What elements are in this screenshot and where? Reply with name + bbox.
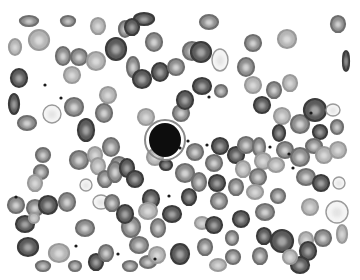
- red-blood-cell: [271, 189, 285, 203]
- red-blood-cell: [247, 185, 263, 199]
- platelet: [43, 83, 46, 86]
- red-blood-cell: [226, 250, 240, 264]
- platelet: [167, 194, 170, 197]
- red-blood-cell: [106, 38, 126, 60]
- red-blood-cell: [250, 169, 266, 185]
- red-blood-cell: [187, 144, 203, 160]
- red-blood-cell: [103, 138, 119, 156]
- red-blood-cell: [71, 49, 87, 65]
- red-blood-cell: [65, 98, 83, 116]
- red-blood-cell: [39, 196, 57, 214]
- red-blood-cell: [283, 75, 297, 91]
- red-blood-cell: [149, 247, 165, 263]
- red-blood-cell: [18, 238, 38, 256]
- red-blood-cell: [198, 239, 212, 255]
- red-blood-cell: [18, 116, 36, 130]
- red-blood-cell: [245, 77, 261, 93]
- red-blood-cell: [331, 16, 345, 32]
- red-blood-cell: [177, 91, 193, 109]
- red-blood-cell: [191, 42, 211, 62]
- red-blood-cell: [193, 78, 211, 94]
- red-blood-cell: [215, 85, 227, 97]
- red-blood-cell: [192, 173, 206, 191]
- red-blood-cell: [209, 175, 225, 191]
- red-blood-cell: [238, 137, 254, 153]
- red-blood-cell: [302, 199, 318, 215]
- red-blood-cell: [304, 99, 326, 121]
- red-blood-cell: [64, 67, 80, 83]
- red-blood-cell: [36, 148, 50, 162]
- red-blood-cell: [253, 248, 267, 264]
- red-blood-cell: [9, 94, 19, 114]
- red-blood-cell: [61, 16, 75, 26]
- platelet: [268, 145, 271, 148]
- red-blood-cell: [229, 179, 243, 195]
- red-blood-cell: [146, 33, 162, 51]
- red-blood-cell: [233, 211, 249, 227]
- red-blood-cell: [36, 261, 50, 271]
- red-blood-cell: [337, 225, 347, 243]
- red-blood-cell: [236, 161, 250, 177]
- red-blood-cell: [330, 142, 346, 158]
- platelet: [116, 252, 119, 255]
- micrograph-canvas: [0, 0, 360, 280]
- red-blood-cell: [70, 151, 88, 169]
- red-blood-cell: [267, 82, 281, 98]
- red-blood-cell: [29, 213, 39, 223]
- red-blood-cell: [200, 15, 218, 29]
- red-blood-cell: [278, 30, 296, 48]
- red-blood-cell: [226, 231, 238, 245]
- red-blood-cell: [125, 19, 139, 35]
- red-blood-cell: [160, 160, 172, 170]
- red-blood-cell: [91, 18, 105, 34]
- red-blood-cell: [331, 120, 343, 134]
- red-blood-cell: [80, 179, 92, 191]
- red-blood-cell: [139, 203, 157, 219]
- red-blood-cell: [59, 193, 75, 211]
- red-blood-cell: [212, 49, 228, 71]
- platelet: [205, 143, 208, 146]
- red-blood-cell: [130, 237, 148, 253]
- red-blood-cell: [168, 59, 184, 75]
- red-blood-cell: [151, 219, 165, 237]
- red-blood-cell: [257, 228, 271, 244]
- red-blood-cell: [273, 125, 285, 141]
- red-blood-cell: [206, 155, 222, 171]
- red-blood-cell: [333, 177, 345, 189]
- red-blood-cell: [20, 16, 38, 26]
- red-blood-cell: [152, 63, 168, 81]
- red-blood-cell: [211, 193, 227, 209]
- red-blood-cell: [133, 70, 151, 88]
- red-blood-cell: [326, 104, 340, 116]
- red-blood-cell: [29, 30, 49, 50]
- red-blood-cell: [343, 51, 349, 71]
- platelet: [309, 111, 312, 114]
- red-blood-cell: [163, 206, 181, 222]
- platelet: [153, 257, 156, 260]
- red-blood-cell: [69, 261, 81, 271]
- red-blood-cell: [274, 108, 290, 124]
- lymphocyte-nucleus: [149, 123, 181, 157]
- red-blood-cell: [96, 104, 112, 122]
- red-blood-cell: [245, 35, 261, 51]
- red-blood-cell: [8, 197, 24, 213]
- red-blood-cell: [117, 205, 133, 223]
- platelet: [287, 152, 290, 155]
- platelet: [14, 195, 17, 198]
- red-blood-cell: [271, 230, 293, 252]
- red-blood-cell: [127, 171, 143, 187]
- red-blood-cell: [254, 97, 270, 113]
- red-blood-cell: [49, 244, 69, 262]
- red-blood-cell: [138, 109, 154, 125]
- platelet: [59, 96, 62, 99]
- red-blood-cell: [171, 244, 189, 264]
- red-blood-cell: [87, 52, 105, 70]
- red-blood-cell: [11, 69, 27, 87]
- red-blood-cell: [315, 230, 331, 246]
- red-blood-cell: [283, 250, 297, 264]
- platelet: [186, 139, 189, 142]
- red-blood-cell: [313, 125, 327, 139]
- red-blood-cell: [210, 259, 226, 271]
- red-blood-cell: [28, 175, 42, 191]
- red-blood-cell: [182, 189, 196, 205]
